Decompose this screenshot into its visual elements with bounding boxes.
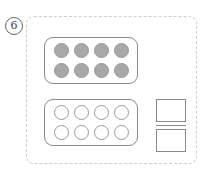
- empty-dot-icon[interactable]: [94, 105, 109, 120]
- empty-ten-frame: [44, 99, 138, 146]
- filled-dot-icon: [74, 43, 89, 58]
- empty-dot-icon[interactable]: [54, 125, 69, 140]
- filled-dot-icon: [94, 63, 109, 78]
- fraction-divider: [156, 125, 186, 126]
- filled-dot-icon: [74, 63, 89, 78]
- filled-dot-icon: [114, 43, 129, 58]
- filled-ten-frame: [44, 37, 138, 84]
- empty-dot-icon[interactable]: [54, 105, 69, 120]
- empty-dot-icon[interactable]: [114, 105, 129, 120]
- empty-dot-icon[interactable]: [114, 125, 129, 140]
- filled-dot-icon: [94, 43, 109, 58]
- problem-number: 6: [5, 17, 23, 35]
- empty-dot-icon[interactable]: [74, 105, 89, 120]
- filled-dot-icon: [54, 43, 69, 58]
- filled-dot-icon: [54, 63, 69, 78]
- filled-dot-icon: [114, 63, 129, 78]
- empty-dot-icon[interactable]: [74, 125, 89, 140]
- empty-dot-icon[interactable]: [94, 125, 109, 140]
- answer-box-top[interactable]: [156, 99, 186, 122]
- answer-box-bottom[interactable]: [156, 129, 186, 152]
